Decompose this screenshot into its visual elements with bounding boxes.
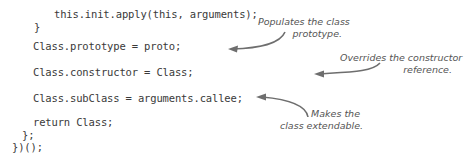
- annotation-prototype-line2: prototype.: [258, 28, 342, 40]
- annotation-constructor-line1: Overrides the constructor: [340, 52, 452, 64]
- annotation-subclass-line2: class extendable.: [280, 120, 360, 132]
- annotation-constructor-line2: reference.: [340, 64, 452, 76]
- annotation-arrows: [0, 0, 464, 164]
- annotation-subclass-line1: Makes the: [280, 108, 360, 120]
- annotation-prototype-line1: Populates the class: [258, 16, 342, 28]
